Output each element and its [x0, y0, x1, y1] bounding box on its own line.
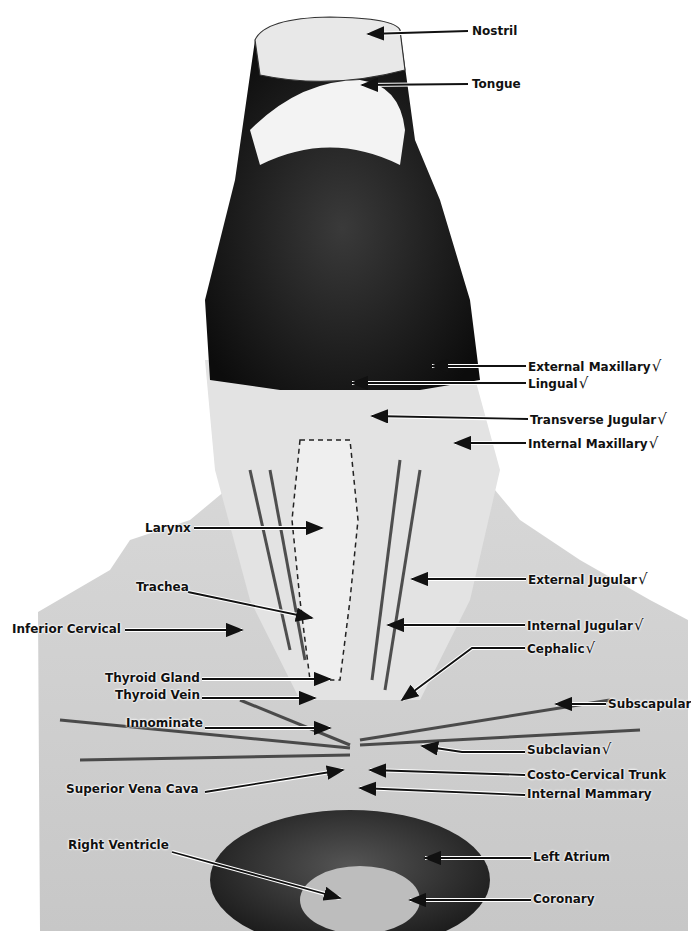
label-cephalic: Cephalic√	[527, 641, 595, 656]
check-icon: √	[652, 357, 662, 375]
label-thyroid-gland: Thyroid Gland	[105, 671, 200, 685]
label-inferior-cervical: Inferior Cervical	[12, 622, 121, 636]
leader-arrow-tongue	[362, 84, 468, 85]
check-icon: √	[602, 740, 612, 758]
leader-arrow-superior-vena-cava	[205, 770, 343, 792]
label-trachea: Trachea	[136, 580, 189, 594]
label-tongue: Tongue	[472, 77, 521, 91]
label-internal-mammary: Internal Mammary	[527, 787, 652, 801]
label-internal-jugular: Internal Jugular√	[527, 618, 644, 633]
label-right-ventricle: Right Ventricle	[68, 838, 169, 852]
check-icon: √	[634, 616, 644, 634]
label-larynx: Larynx	[145, 521, 191, 535]
label-lingual: Lingual√	[528, 376, 588, 391]
leader-arrow-trachea	[188, 592, 312, 618]
check-icon: √	[638, 570, 648, 588]
label-transverse-jugular: Transverse Jugular√	[530, 412, 667, 427]
check-icon: √	[657, 410, 667, 428]
leader-arrow-internal-mammary	[360, 788, 525, 795]
label-superior-vena-cava: Superior Vena Cava	[66, 782, 199, 796]
label-nostril: Nostril	[472, 24, 517, 38]
label-subclavian: Subclavian√	[527, 742, 611, 757]
check-icon: √	[649, 434, 659, 452]
label-costo-cervical-trunk: Costo-Cervical Trunk	[527, 768, 666, 782]
label-innominate: Innominate	[126, 716, 203, 730]
label-internal-maxillary: Internal Maxillary√	[528, 436, 658, 451]
check-icon: √	[579, 374, 589, 392]
label-external-jugular: External Jugular√	[528, 572, 648, 587]
check-icon: √	[586, 639, 596, 657]
label-subscapular: Subscapular	[608, 697, 691, 711]
leader-arrow-right-ventricle	[172, 852, 340, 898]
label-coronary: Coronary	[533, 892, 595, 906]
label-left-atrium: Left Atrium	[533, 850, 610, 864]
label-external-maxillary: External Maxillary√	[528, 359, 661, 374]
label-thyroid-vein: Thyroid Vein	[115, 688, 200, 702]
